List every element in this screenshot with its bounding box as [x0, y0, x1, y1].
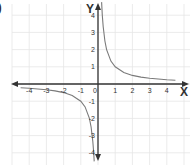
y-tick-label: -2	[89, 115, 95, 122]
hyperbola-chart: XY -4-3-2-1012344321-1-2-3-4	[0, 0, 195, 167]
x-tick-label: -2	[60, 87, 66, 94]
x-tick-label: 0	[93, 87, 97, 94]
x-axis-label: X	[180, 85, 188, 99]
x-tick-label: -3	[43, 87, 49, 94]
x-tick-label: 2	[130, 87, 134, 94]
y-tick-label: -1	[89, 98, 95, 105]
y-tick-label: 2	[91, 46, 95, 53]
x-tick-label: 1	[113, 87, 117, 94]
x-tick-label: 4	[165, 87, 169, 94]
y-tick-label: 1	[91, 63, 95, 70]
curve-branch-positive	[102, 2, 176, 80]
y-tick-label: 4	[91, 12, 95, 19]
axes: XY	[11, 2, 189, 161]
y-tick-label: 3	[91, 29, 95, 36]
x-tick-label: 3	[148, 87, 152, 94]
y-tick-label: -4	[89, 149, 95, 156]
x-tick-label: -1	[78, 87, 84, 94]
curve-branch-negative	[21, 88, 95, 162]
x-tick-label: -4	[26, 87, 32, 94]
y-tick-label: -3	[89, 132, 95, 139]
y-axis-arrow-up-icon	[95, 3, 101, 10]
y-axis-arrow-down-icon	[95, 154, 101, 161]
